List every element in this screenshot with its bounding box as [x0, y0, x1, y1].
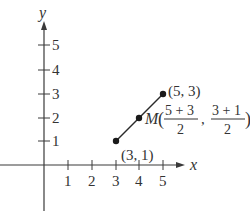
- point-3-1: [113, 138, 119, 144]
- y-tick-label-3: 3: [52, 86, 60, 102]
- point-label-5-3: (5, 3): [168, 83, 201, 100]
- y-ticks: 1 2 3 4 5: [38, 37, 60, 149]
- y-tick-label-2: 2: [52, 110, 60, 126]
- x-ticks: 1 2 3 4 5: [64, 160, 167, 189]
- formula-y-numerator: 3 + 1: [212, 103, 241, 118]
- x-tick-label-4: 4: [135, 173, 143, 189]
- y-tick-label-5: 5: [52, 37, 60, 53]
- formula-close-paren: ): [245, 109, 250, 130]
- midpoint-m: [136, 115, 142, 121]
- x-tick-label-3: 3: [112, 173, 120, 189]
- coordinate-plane: y x 1 2 3 4 5 1 2 3 4 5 (3, 1) (5, 3) M: [0, 0, 250, 211]
- midpoint-formula: M ( 5 + 3 2 , 3 + 1 2 ): [144, 103, 250, 137]
- x-tick-label-5: 5: [159, 173, 167, 189]
- formula-y-denominator: 2: [224, 122, 231, 137]
- x-axis-label: x: [189, 156, 197, 173]
- formula-x-denominator: 2: [177, 122, 184, 137]
- formula-x-numerator: 5 + 3: [165, 103, 194, 118]
- point-5-3: [160, 91, 166, 97]
- y-tick-label-4: 4: [52, 62, 60, 78]
- x-tick-label-1: 1: [64, 173, 72, 189]
- formula-open-paren: (: [158, 109, 164, 130]
- y-axis-arrow-icon: [41, 21, 47, 30]
- point-label-3-1: (3, 1): [121, 147, 154, 164]
- y-tick-label-1: 1: [52, 133, 60, 149]
- y-axis-label: y: [37, 4, 47, 22]
- x-tick-label-2: 2: [88, 173, 96, 189]
- x-axis-arrow-icon: [176, 162, 185, 168]
- formula-separator: ,: [201, 111, 205, 127]
